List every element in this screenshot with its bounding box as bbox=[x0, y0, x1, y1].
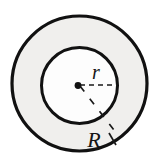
annulus-figure: r R bbox=[0, 0, 165, 163]
outer-radius-label: R bbox=[86, 127, 101, 152]
annulus-diagram-canvas: r R bbox=[0, 0, 165, 163]
center-point-dot bbox=[75, 82, 82, 89]
inner-radius-label: r bbox=[92, 61, 100, 83]
